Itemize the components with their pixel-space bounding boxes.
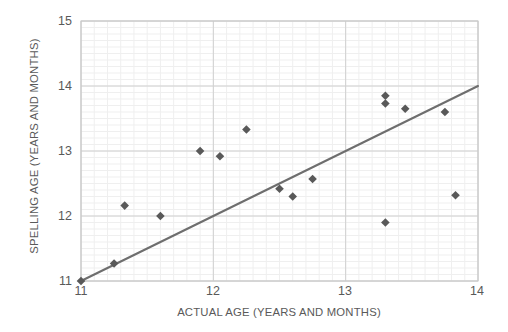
data-point bbox=[156, 212, 165, 221]
data-point bbox=[242, 125, 251, 134]
data-point bbox=[77, 277, 86, 286]
data-point bbox=[216, 152, 225, 161]
data-point bbox=[196, 147, 205, 156]
data-point bbox=[441, 108, 450, 117]
data-point bbox=[381, 218, 390, 227]
data-point bbox=[308, 175, 317, 184]
plot-area bbox=[0, 0, 508, 332]
data-point bbox=[288, 192, 297, 201]
data-point bbox=[381, 99, 390, 108]
data-point bbox=[451, 191, 460, 200]
scatter-chart: SPELLING AGE (YEARS AND MONTHS) ACTUAL A… bbox=[0, 0, 508, 332]
